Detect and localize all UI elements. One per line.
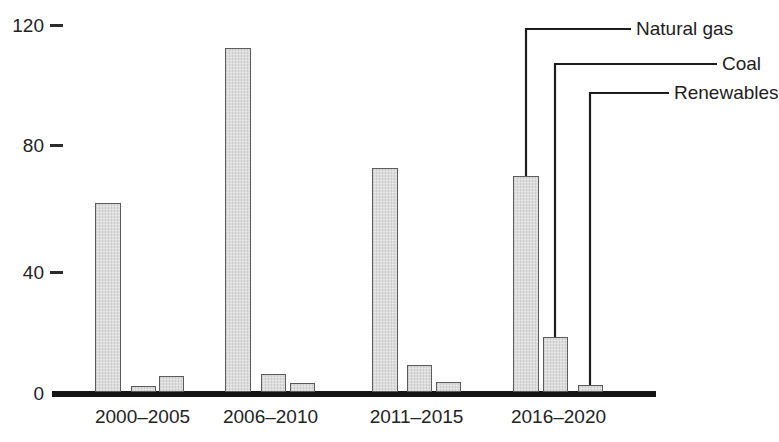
leader-line-coal	[555, 64, 717, 337]
x-axis-group-label-2000-2005: 2000–2005	[70, 406, 215, 427]
leader-line-renewables	[590, 93, 669, 385]
y-axis-tick-label-40: 40	[0, 263, 44, 282]
bar-2011-2015-coal	[407, 365, 432, 392]
bar-2016-2020-renewables	[578, 385, 603, 392]
bar-2006-2010-renewables	[290, 383, 315, 392]
bar-2016-2020-coal	[543, 337, 568, 392]
y-axis-tick-mark-120	[50, 24, 63, 27]
leader-line-natural-gas	[526, 29, 631, 176]
callout-label-renewables: Renewables	[674, 82, 779, 103]
bar-2016-2020-natural-gas	[513, 176, 539, 392]
bar-2011-2015-natural-gas	[372, 168, 398, 392]
bar-2011-2015-renewables	[436, 382, 461, 392]
x-axis-group-label-2011-2015: 2011–2015	[344, 406, 489, 427]
bar-2000-2005-natural-gas	[95, 203, 121, 392]
callout-label-coal: Coal	[722, 53, 761, 74]
y-axis-tick-label-80: 80	[0, 136, 44, 155]
y-axis-tick-mark-40	[50, 271, 63, 274]
callout-label-natural-gas: Natural gas	[636, 18, 733, 39]
bar-2006-2010-coal	[261, 374, 286, 392]
y-axis-tick-mark-80	[50, 144, 63, 147]
bar-2006-2010-natural-gas	[225, 48, 251, 392]
x-axis-group-label-2006-2010: 2006–2010	[198, 406, 343, 427]
bar-2000-2005-renewables	[159, 376, 184, 392]
y-axis-tick-label-120: 120	[0, 16, 44, 35]
y-axis-tick-label-0: 0	[0, 384, 44, 403]
x-axis-group-label-2016-2020: 2016–2020	[486, 406, 631, 427]
bar-2000-2005-coal	[131, 386, 156, 392]
